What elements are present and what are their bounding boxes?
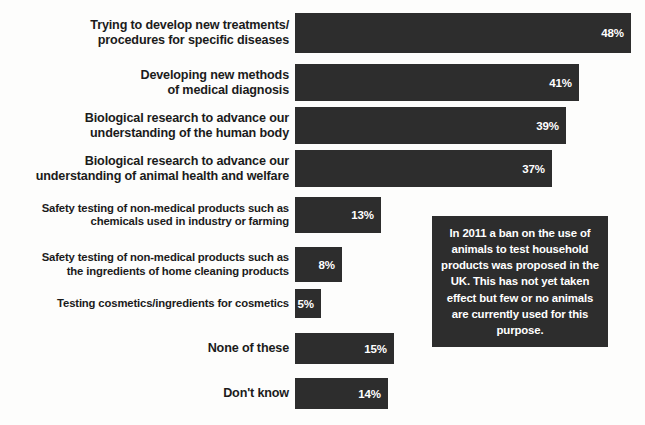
- bar-value-label: 5%: [298, 298, 314, 310]
- bar: 14%: [295, 378, 388, 409]
- bar: 41%: [295, 64, 579, 101]
- bar-row: Trying to develop new treatments/procedu…: [0, 13, 645, 53]
- bar-category-label-line: chemicals used in industry or farming: [0, 215, 289, 228]
- bar-track: 39%: [295, 107, 645, 144]
- bar-value-label: 13%: [351, 209, 374, 221]
- bar-row: Developing new methodsof medical diagnos…: [0, 64, 645, 101]
- bar-category-label: Don't know: [0, 386, 295, 401]
- bar-track: 37%: [295, 150, 645, 187]
- bar-value-label: 41%: [549, 77, 572, 89]
- bar-category-label-line: Safety testing of non-medical products s…: [0, 202, 289, 215]
- bar-category-label-line: Testing cosmetics/ingredients for cosmet…: [0, 297, 289, 310]
- bar-category-label: Testing cosmetics/ingredients for cosmet…: [0, 297, 295, 310]
- bar-category-label: Safety testing of non-medical products s…: [0, 251, 295, 278]
- bar-value-label: 48%: [601, 27, 624, 39]
- bar-value-label: 39%: [536, 120, 559, 132]
- bar-track: 14%: [295, 378, 645, 409]
- horizontal-bar-chart: Trying to develop new treatments/procedu…: [0, 0, 645, 425]
- bar-category-label-line: procedures for specific diseases: [0, 33, 289, 48]
- bar-category-label-line: None of these: [0, 341, 289, 356]
- annotation-callout-text: In 2011 a ban on the use of animals to t…: [440, 225, 600, 338]
- bar-row: Biological research to advance ourunders…: [0, 150, 645, 187]
- bar: 39%: [295, 107, 566, 144]
- bar: 48%: [295, 13, 631, 53]
- bar-category-label: Trying to develop new treatments/procedu…: [0, 18, 295, 48]
- bar-category-label-line: understanding of the human body: [0, 126, 289, 141]
- bar: 13%: [295, 197, 381, 233]
- bar-value-label: 14%: [358, 388, 381, 400]
- bar-category-label-line: of medical diagnosis: [0, 83, 289, 98]
- bar-track: 41%: [295, 64, 645, 101]
- bar-category-label-line: the ingredients of home cleaning product…: [0, 265, 289, 278]
- bar-category-label: Developing new methodsof medical diagnos…: [0, 68, 295, 98]
- bar: 15%: [295, 333, 394, 364]
- bar-value-label: 15%: [364, 343, 387, 355]
- bar-value-label: 37%: [522, 163, 545, 175]
- bar-category-label: Biological research to advance ourunders…: [0, 111, 295, 141]
- bar-category-label-line: Trying to develop new treatments/: [0, 18, 289, 33]
- bar: 37%: [295, 150, 552, 187]
- bar-category-label-line: Developing new methods: [0, 68, 289, 83]
- bar-row: Biological research to advance ourunders…: [0, 107, 645, 144]
- bar-row: Don't know14%: [0, 378, 645, 409]
- bar-category-label-line: Don't know: [0, 386, 289, 401]
- bar: 8%: [295, 247, 342, 282]
- bar-category-label-line: Biological research to advance our: [0, 154, 289, 169]
- annotation-callout: In 2011 a ban on the use of animals to t…: [432, 216, 608, 347]
- bar-category-label-line: understanding of animal health and welfa…: [0, 169, 289, 184]
- bar-track: 48%: [295, 13, 645, 53]
- bar-category-label-line: Safety testing of non-medical products s…: [0, 251, 289, 264]
- bar-category-label: Safety testing of non-medical products s…: [0, 202, 295, 229]
- bar: 5%: [295, 289, 321, 318]
- bar-category-label: None of these: [0, 341, 295, 356]
- bar-category-label-line: Biological research to advance our: [0, 111, 289, 126]
- bar-category-label: Biological research to advance ourunders…: [0, 154, 295, 184]
- bar-value-label: 8%: [319, 259, 335, 271]
